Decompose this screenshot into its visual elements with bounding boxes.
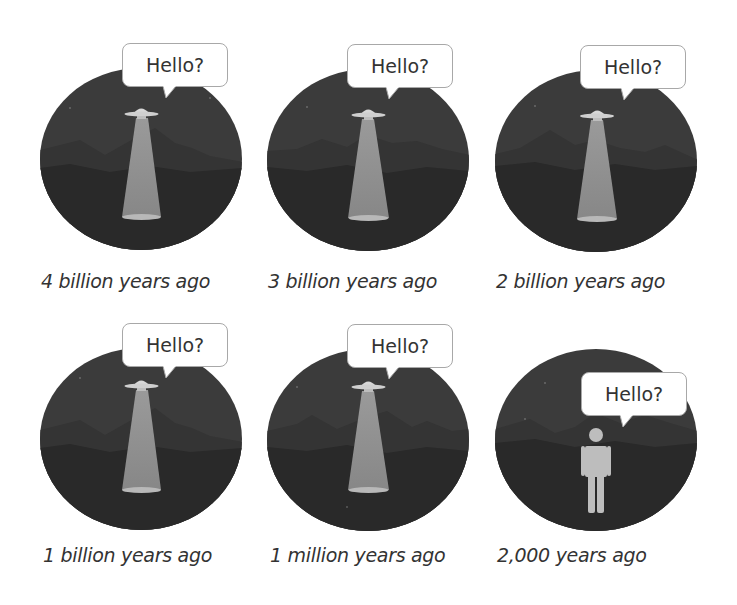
ufo-icon — [40, 68, 243, 250]
caption: 4 billion years ago — [41, 270, 210, 292]
speech-text: Hello? — [146, 334, 204, 356]
ufo-icon — [40, 348, 243, 530]
speech-bubble: Hello? — [347, 324, 453, 368]
caption: 2,000 years ago — [497, 544, 647, 566]
speech-text: Hello? — [371, 335, 429, 357]
tractor-beam — [122, 118, 161, 217]
ufo-icon — [495, 70, 698, 252]
ufo-icon — [267, 69, 470, 251]
panel-2000-years: Hello? — [495, 349, 698, 531]
caption: 1 billion years ago — [43, 544, 212, 566]
caption: 3 billion years ago — [268, 270, 437, 292]
speech-text: Hello? — [146, 54, 204, 76]
panel-3-billion-years: Hello? — [267, 69, 470, 251]
panel-4-billion-years: Hello? — [40, 68, 243, 250]
speech-text: Hello? — [604, 56, 662, 78]
panel-1-billion-years: Hello? — [40, 348, 243, 530]
speech-bubble: Hello? — [581, 372, 687, 416]
speech-bubble: Hello? — [580, 45, 686, 89]
panel-2-billion-years: Hello? — [495, 70, 698, 252]
speech-bubble-tail — [385, 367, 401, 380]
speech-bubble: Hello? — [347, 44, 453, 88]
speech-bubble: Hello? — [122, 323, 228, 367]
speech-bubble-tail — [619, 415, 635, 428]
speech-text: Hello? — [371, 55, 429, 77]
panel-1-million-years: Hello? — [267, 349, 470, 531]
caption: 1 million years ago — [270, 544, 445, 566]
speech-bubble-tail — [385, 87, 401, 100]
tractor-beam — [577, 120, 617, 219]
tractor-beam — [122, 390, 161, 490]
tractor-beam — [348, 391, 389, 490]
speech-bubble-tail — [162, 366, 178, 379]
speech-text: Hello? — [605, 383, 663, 405]
speech-bubble-tail — [620, 88, 636, 101]
ufo-icon — [267, 349, 470, 531]
tractor-beam — [348, 119, 389, 218]
caption: 2 billion years ago — [496, 270, 665, 292]
speech-bubble: Hello? — [122, 43, 228, 87]
speech-bubble-tail — [162, 86, 178, 99]
